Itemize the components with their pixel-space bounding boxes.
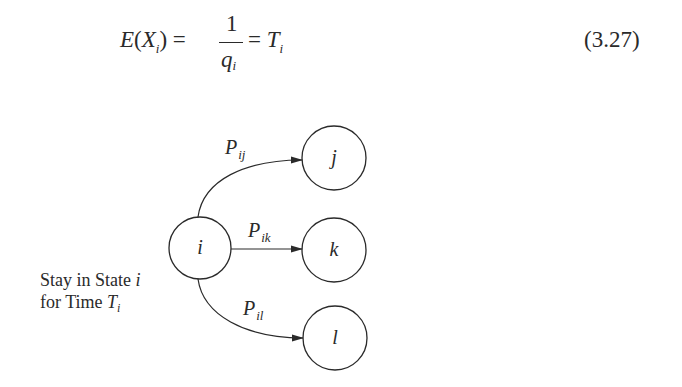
caption-line-1-text: Stay in State	[40, 270, 136, 290]
edge-label-pij-main: P	[225, 136, 237, 158]
edge-i-j	[198, 160, 302, 217]
caption-line-2-var: T	[107, 292, 117, 312]
edge-label-pik-main: P	[248, 219, 260, 241]
node-k-label: k	[314, 238, 354, 261]
edge-label-pil: Pil	[243, 297, 263, 320]
edge-label-pij: Pij	[225, 136, 245, 159]
edge-label-pik-sub: ik	[261, 230, 270, 245]
edge-label-pil-sub: il	[256, 308, 263, 323]
edge-label-pil-main: P	[243, 297, 255, 319]
caption-line-2-text: for Time	[40, 292, 107, 312]
edge-label-pik: Pik	[248, 219, 271, 242]
node-l-label: l	[315, 326, 355, 349]
caption-line-2-sub: i	[117, 301, 120, 315]
diagram-caption: Stay in State i for Time Ti	[40, 269, 141, 315]
edge-label-pij-sub: ij	[238, 147, 245, 162]
caption-line-1: Stay in State i	[40, 269, 141, 291]
node-i-label: i	[180, 236, 220, 259]
caption-line-2: for Time Ti	[40, 291, 141, 315]
caption-line-1-var: i	[136, 270, 141, 290]
node-j-label: j	[314, 146, 354, 169]
